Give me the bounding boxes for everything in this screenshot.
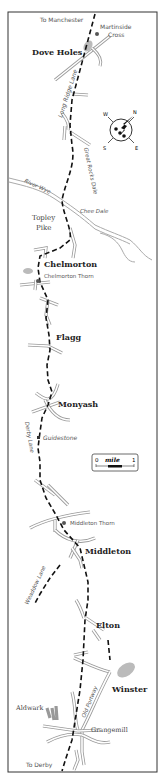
place-grangemill: Grangemill xyxy=(91,726,128,734)
to-manchester-label: To Manchester xyxy=(39,16,84,23)
scale-unit: mile xyxy=(105,456,120,463)
scale-end: 1 xyxy=(132,457,136,463)
landmark-martinside-cross-2: Cross xyxy=(108,31,124,38)
map-frame xyxy=(8,12,157,772)
place-elton: Elton xyxy=(96,620,120,630)
to-derby-label: To Derby xyxy=(25,761,53,769)
place-topley-pike-2: Pike xyxy=(36,224,51,232)
place-flagg: Flagg xyxy=(56,332,81,342)
route-map: To Manchester To Derby Dove Holes Topley… xyxy=(0,0,167,781)
compass-w: W xyxy=(103,111,108,117)
place-monyash: Monyash xyxy=(58,399,98,409)
label-chee-dale: Chee Dale xyxy=(80,208,109,214)
landmark-middleton-thorn: Middleton Thorn xyxy=(70,520,115,526)
place-topley-pike-1: Topley xyxy=(32,214,55,222)
landmark-guidestone: Guidestone xyxy=(43,434,78,441)
place-dove-holes: Dove Holes xyxy=(32,47,83,57)
landmark-martinside-cross-1: Martinside xyxy=(100,23,132,30)
guidestone-marker xyxy=(37,436,40,439)
chelmorton-thorn-marker xyxy=(36,279,40,283)
scale-bar: 0 mile 1 xyxy=(92,454,138,471)
compass-e: E xyxy=(135,145,138,151)
scale-start: 0 xyxy=(95,457,99,463)
compass-s: S xyxy=(103,145,106,151)
place-middleton: Middleton xyxy=(85,546,131,556)
place-chelmorton: Chelmorton xyxy=(44,259,97,269)
middleton-thorn-marker xyxy=(62,521,66,525)
martinside-cross-marker xyxy=(95,32,99,36)
place-aldwark: Aldwark xyxy=(15,704,43,712)
landmark-chelmorton-thorn: Chelmorton Thorn xyxy=(44,273,94,279)
place-winster: Winster xyxy=(111,684,148,694)
compass-n: N xyxy=(133,109,137,115)
